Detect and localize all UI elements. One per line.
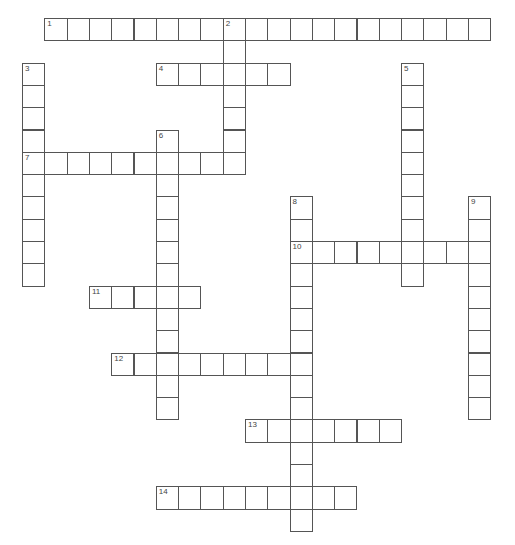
crossword-cell[interactable] [290, 397, 313, 420]
letter-input[interactable] [402, 242, 423, 263]
letter-input[interactable] [23, 220, 44, 241]
crossword-cell[interactable] [401, 18, 424, 41]
crossword-cell[interactable] [111, 152, 134, 175]
letter-input[interactable] [23, 264, 44, 285]
letter-input[interactable] [157, 19, 178, 40]
crossword-cell[interactable] [156, 353, 179, 376]
crossword-cell[interactable] [178, 486, 201, 509]
crossword-cell[interactable] [22, 174, 45, 197]
crossword-cell[interactable] [156, 397, 179, 420]
letter-input[interactable] [112, 287, 133, 308]
crossword-cell[interactable] [334, 18, 357, 41]
crossword-cell[interactable] [267, 18, 290, 41]
crossword-cell[interactable] [357, 419, 380, 442]
crossword-cell[interactable] [22, 219, 45, 242]
letter-input[interactable] [201, 64, 222, 85]
crossword-cell[interactable] [200, 486, 223, 509]
crossword-cell[interactable] [468, 308, 491, 331]
crossword-cell[interactable] [67, 152, 90, 175]
letter-input[interactable] [402, 197, 423, 218]
letter-input[interactable] [291, 398, 312, 419]
crossword-cell[interactable] [178, 63, 201, 86]
letter-input[interactable] [447, 19, 468, 40]
crossword-cell[interactable]: 7 [22, 152, 45, 175]
crossword-cell[interactable] [267, 486, 290, 509]
letter-input[interactable] [291, 420, 312, 441]
letter-input[interactable] [291, 465, 312, 486]
letter-input[interactable] [23, 153, 44, 174]
letter-input[interactable] [201, 19, 222, 40]
letter-input[interactable] [313, 420, 334, 441]
letter-input[interactable] [224, 108, 245, 129]
letter-input[interactable] [157, 64, 178, 85]
crossword-cell[interactable] [290, 464, 313, 487]
crossword-cell[interactable] [401, 196, 424, 219]
crossword-cell[interactable] [312, 241, 335, 264]
crossword-cell[interactable] [312, 486, 335, 509]
letter-input[interactable] [268, 487, 289, 508]
crossword-cell[interactable] [401, 152, 424, 175]
crossword-cell[interactable] [156, 219, 179, 242]
letter-input[interactable] [23, 175, 44, 196]
letter-input[interactable] [313, 242, 334, 263]
crossword-cell[interactable] [156, 196, 179, 219]
letter-input[interactable] [380, 242, 401, 263]
crossword-cell[interactable] [111, 286, 134, 309]
letter-input[interactable] [157, 331, 178, 352]
letter-input[interactable] [90, 153, 111, 174]
letter-input[interactable] [380, 19, 401, 40]
crossword-cell[interactable] [468, 375, 491, 398]
crossword-cell[interactable]: 2 [223, 18, 246, 41]
crossword-cell[interactable] [89, 152, 112, 175]
crossword-cell[interactable]: 1 [44, 18, 67, 41]
crossword-cell[interactable] [379, 241, 402, 264]
crossword-cell[interactable] [134, 353, 157, 376]
crossword-cell[interactable] [178, 353, 201, 376]
crossword-cell[interactable] [156, 174, 179, 197]
crossword-cell[interactable] [468, 219, 491, 242]
letter-input[interactable] [23, 108, 44, 129]
letter-input[interactable] [157, 287, 178, 308]
letter-input[interactable] [179, 487, 200, 508]
crossword-cell[interactable]: 13 [245, 419, 268, 442]
crossword-cell[interactable] [334, 486, 357, 509]
letter-input[interactable] [358, 242, 379, 263]
letter-input[interactable] [224, 354, 245, 375]
letter-input[interactable] [112, 153, 133, 174]
crossword-cell[interactable] [200, 18, 223, 41]
crossword-cell[interactable] [89, 18, 112, 41]
letter-input[interactable] [135, 153, 156, 174]
letter-input[interactable] [402, 64, 423, 85]
letter-input[interactable] [157, 242, 178, 263]
crossword-cell[interactable] [357, 241, 380, 264]
letter-input[interactable] [291, 331, 312, 352]
letter-input[interactable] [23, 64, 44, 85]
crossword-cell[interactable] [67, 18, 90, 41]
letter-input[interactable] [23, 86, 44, 107]
letter-input[interactable] [402, 108, 423, 129]
letter-input[interactable] [23, 197, 44, 218]
crossword-cell[interactable] [334, 241, 357, 264]
crossword-cell[interactable] [290, 219, 313, 242]
crossword-cell[interactable] [468, 397, 491, 420]
crossword-cell[interactable] [334, 419, 357, 442]
crossword-cell[interactable] [156, 18, 179, 41]
letter-input[interactable] [224, 64, 245, 85]
letter-input[interactable] [291, 510, 312, 531]
crossword-cell[interactable] [111, 18, 134, 41]
letter-input[interactable] [201, 354, 222, 375]
letter-input[interactable] [402, 19, 423, 40]
letter-input[interactable] [246, 19, 267, 40]
letter-input[interactable] [469, 376, 490, 397]
letter-input[interactable] [224, 131, 245, 152]
letter-input[interactable] [68, 19, 89, 40]
letter-input[interactable] [45, 153, 66, 174]
letter-input[interactable] [68, 153, 89, 174]
letter-input[interactable] [291, 376, 312, 397]
crossword-cell[interactable] [223, 107, 246, 130]
crossword-cell[interactable]: 9 [468, 196, 491, 219]
letter-input[interactable] [380, 420, 401, 441]
crossword-cell[interactable] [200, 152, 223, 175]
crossword-cell[interactable] [44, 152, 67, 175]
crossword-cell[interactable] [267, 419, 290, 442]
